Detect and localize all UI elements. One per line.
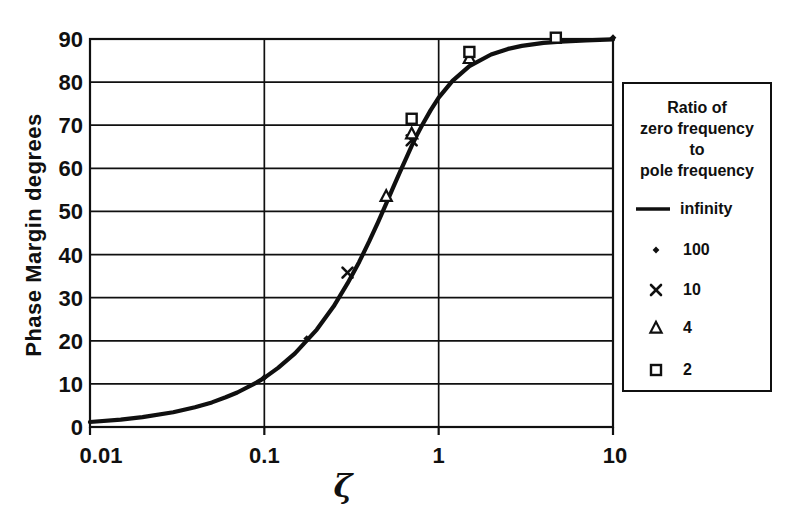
legend-title-line: to xyxy=(624,139,770,160)
y-tick-label: 10 xyxy=(59,372,83,397)
x-axis-title: ζ xyxy=(334,467,353,505)
legend-title: Ratio of zero frequency to pole frequenc… xyxy=(624,97,770,181)
legend-entry-label: infinity xyxy=(680,200,732,218)
y-tick-label: 60 xyxy=(59,156,83,181)
triangle-marker-icon xyxy=(636,318,676,338)
legend-entry: 10 xyxy=(636,279,766,301)
y-tick-label: 30 xyxy=(59,286,83,311)
square-marker-icon xyxy=(636,360,676,380)
dot-marker-icon xyxy=(653,247,660,254)
legend-entry-label: 100 xyxy=(683,241,710,259)
square-marker-icon xyxy=(464,47,474,57)
square-marker-icon xyxy=(407,114,417,124)
legend-title-line: pole frequency xyxy=(624,160,770,181)
y-tick-label: 20 xyxy=(59,329,83,354)
legend-title-line: Ratio of xyxy=(624,97,770,118)
y-tick-label: 70 xyxy=(59,113,83,138)
y-tick-label: 0 xyxy=(71,415,83,440)
y-tick-label: 50 xyxy=(59,199,83,224)
dot-marker-icon xyxy=(636,240,676,260)
x-tick-label: 10 xyxy=(603,443,627,468)
legend: Ratio of zero frequency to pole frequenc… xyxy=(622,82,772,392)
triangle-marker-icon xyxy=(406,128,417,139)
line-swatch-icon xyxy=(633,199,673,219)
legend-entry: 2 xyxy=(636,359,766,381)
legend-entry: 4 xyxy=(636,317,766,339)
y-tick-label: 80 xyxy=(59,70,83,95)
curve-infinity xyxy=(90,39,613,422)
legend-entry-label: 4 xyxy=(683,319,692,337)
y-tick-label: 90 xyxy=(59,27,83,52)
phase-margin-figure: 01020304050607080900.010.1110 Phase Marg… xyxy=(0,0,791,520)
x-tick-label: 1 xyxy=(433,443,445,468)
x-tick-label: 0.1 xyxy=(249,443,280,468)
legend-entry-label: 2 xyxy=(683,361,692,379)
cross-marker-icon xyxy=(636,280,676,300)
plot-frame xyxy=(90,39,613,427)
legend-entry: 100 xyxy=(636,239,766,261)
cross-marker-icon xyxy=(651,285,661,295)
legend-entry-label: 10 xyxy=(683,281,701,299)
triangle-marker-icon xyxy=(650,322,661,333)
y-axis-title: Phase Margin degrees xyxy=(21,113,47,357)
legend-entry: infinity xyxy=(633,198,766,220)
y-tick-label: 40 xyxy=(59,243,83,268)
square-marker-icon xyxy=(651,365,661,375)
x-tick-label: 0.01 xyxy=(80,443,123,468)
square-marker-icon xyxy=(551,33,561,43)
legend-title-line: zero frequency xyxy=(624,118,770,139)
